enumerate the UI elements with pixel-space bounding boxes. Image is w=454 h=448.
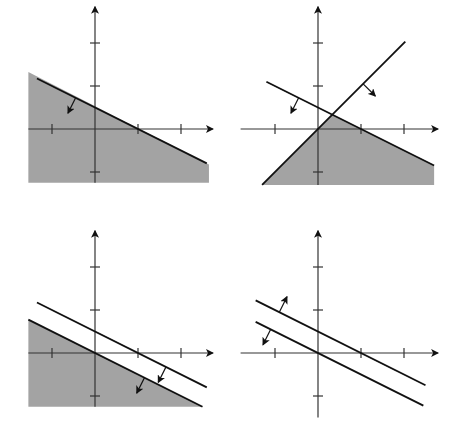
panel-b bbox=[241, 7, 439, 185]
panel-d bbox=[241, 231, 439, 418]
inequality-direction-arrow bbox=[363, 84, 375, 96]
inequality-direction-arrow bbox=[291, 98, 299, 113]
inequality-direction-arrow bbox=[263, 329, 271, 344]
panel-c bbox=[28, 231, 213, 407]
inequality-direction-arrow bbox=[279, 297, 287, 312]
inequality-direction-arrow bbox=[158, 367, 166, 382]
shaded-region bbox=[262, 115, 434, 185]
boundary-line bbox=[256, 300, 426, 385]
figure bbox=[0, 0, 454, 448]
boundary-line bbox=[256, 322, 424, 406]
panel-a bbox=[28, 7, 213, 183]
